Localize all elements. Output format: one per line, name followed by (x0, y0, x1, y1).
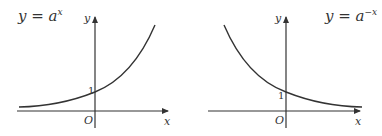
x-axis-label: x (164, 115, 171, 128)
graph-a-to-neg-x: y = a−x y x O 1 (208, 7, 377, 128)
title-label: y = a−x (324, 7, 377, 25)
exponential-graphs: y = ax y x O 1 y = a−x y x O 1 (0, 0, 382, 136)
curve-a-to-neg-x (224, 25, 362, 107)
graph-a-to-x: y = ax y x O 1 (17, 7, 171, 128)
x-axis-label: x (355, 115, 362, 128)
y-axis-label: y (274, 12, 282, 25)
title-label: y = ax (17, 7, 63, 25)
origin-label: O (275, 114, 284, 127)
y-axis-label: y (83, 12, 91, 25)
intercept-label: 1 (88, 85, 94, 96)
curve-a-to-x (19, 25, 155, 107)
origin-label: O (84, 114, 93, 127)
intercept-label: 1 (278, 90, 284, 101)
